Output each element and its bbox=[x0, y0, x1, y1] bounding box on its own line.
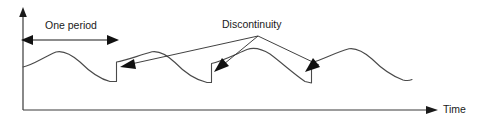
one-period-label: One period bbox=[45, 20, 97, 31]
waveform-path bbox=[23, 48, 412, 83]
x-axis-arrowhead bbox=[426, 106, 438, 114]
y-axis bbox=[19, 7, 27, 110]
one-period-measure-arrow bbox=[21, 35, 119, 45]
waveform-trace bbox=[23, 48, 412, 83]
figure-container: One period Discontinuity Time bbox=[0, 0, 481, 124]
time-axis-label: Time bbox=[443, 104, 466, 115]
y-axis-arrowhead bbox=[19, 7, 27, 17]
discontinuity-arrowhead-2 bbox=[214, 58, 229, 72]
period-arrowhead-right bbox=[107, 35, 119, 45]
discontinuity-label: Discontinuity bbox=[222, 19, 282, 30]
x-axis bbox=[23, 106, 438, 114]
discontinuity-leader-arrows bbox=[120, 36, 320, 72]
